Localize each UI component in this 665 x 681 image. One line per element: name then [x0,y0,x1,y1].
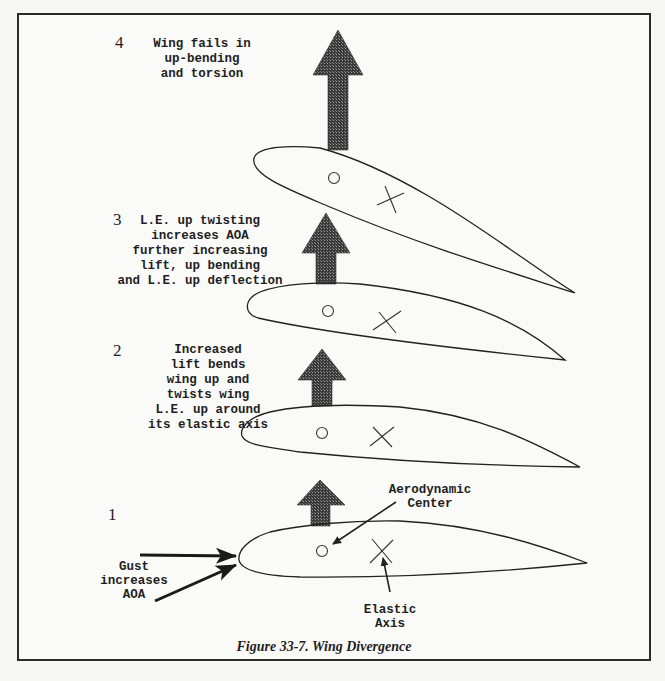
airfoil-stage-1 [239,521,587,577]
lift-arrow-icon [298,349,346,406]
stage-1-number: 1 [108,505,117,524]
elastic-axis-marker [377,186,404,213]
svg-text:L.E. up twisting: L.E. up twisting [140,214,260,228]
svg-text:Axis: Axis [375,617,405,631]
airfoil-stage-3 [247,283,565,360]
stage-3-description: L.E. up twisting increases AOA further i… [117,214,282,288]
gust-arrow-icon [140,555,236,556]
stage-4-number: 4 [115,33,124,52]
svg-text:increases AOA: increases AOA [151,229,249,243]
elastic-axis-marker [370,539,393,563]
pointer-arrow-icon [383,558,390,592]
elastic-axis-marker [373,311,401,333]
aerodynamic-center-label: Aerodynamic Center [389,483,472,511]
aerodynamic-center-marker [317,428,328,439]
figure-caption: Figure 33-7. Wing Divergence [236,639,412,654]
airfoil-stage-2 [242,405,580,467]
svg-text:wing up and: wing up and [167,373,250,387]
aerodynamic-center-marker [323,306,334,317]
svg-text:and L.E. up deflection: and L.E. up deflection [117,274,282,288]
svg-text:Center: Center [407,497,452,511]
svg-text:up-bending: up-bending [164,52,239,66]
airfoil-stage-4 [254,147,575,293]
pointer-arrow-icon [333,502,396,544]
aerodynamic-center-marker [317,546,328,557]
svg-text:Wing fails in: Wing fails in [153,37,251,51]
lift-arrow-icon [297,480,345,526]
svg-text:Gust: Gust [119,560,149,574]
lift-arrow-icon [302,213,350,284]
svg-text:twists wing: twists wing [167,388,250,402]
lift-arrow-icon [313,30,363,150]
svg-text:further increasing: further increasing [132,244,267,258]
stage-3-number: 3 [113,210,122,229]
svg-text:Aerodynamic: Aerodynamic [389,483,472,497]
svg-text:lift, up bending: lift, up bending [140,259,260,273]
stage-2-description: Increased lift bends wing up and twists … [148,343,268,432]
stage-2-number: 2 [113,341,122,360]
gust-label: Gust increases AOA [100,560,168,602]
svg-text:increases: increases [100,574,168,588]
aerodynamic-center-marker [329,173,340,184]
svg-text:AOA: AOA [123,588,146,602]
svg-text:lift bends: lift bends [170,358,245,372]
svg-text:L.E. up around: L.E. up around [155,403,260,417]
elastic-axis-label: Elastic Axis [364,603,417,631]
wing-divergence-diagram: 4 Wing fails in up-bending and torsion 3… [0,0,665,681]
stage-4-description: Wing fails in up-bending and torsion [153,37,251,81]
svg-text:and torsion: and torsion [161,67,244,81]
svg-text:Increased: Increased [174,343,242,357]
elastic-axis-marker [370,427,394,447]
svg-text:Elastic: Elastic [364,603,417,617]
